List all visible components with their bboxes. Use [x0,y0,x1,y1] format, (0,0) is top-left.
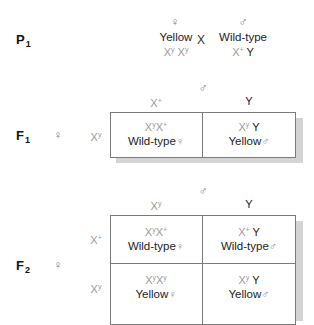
cell-phenotype: Yellow♂ [228,288,269,301]
f2-cell-yellow-male: Xy Y Yellow♂ [228,272,269,301]
p1-label-text: P [16,32,25,47]
header-sup: y [158,200,162,207]
geno-x-sup: y [185,46,189,53]
p1-male-genotype: X+ Y [232,44,254,58]
f1-row-header-x-y: Xy [91,129,102,143]
male-symbol-icon: ♂ [239,16,248,28]
f2-cell-wildtype-male: X+ Y Wild-type♂ [221,224,277,253]
f2-horizontal-divider [110,263,296,264]
header-sup: + [158,97,162,104]
header-sup: y [98,131,102,138]
male-symbol-icon: ♂ [261,135,269,147]
p1-label-sub: 1 [26,39,31,49]
male-symbol-icon: ♂ [269,240,277,252]
cell-genotype: XyX+ [128,224,184,238]
geno-y: Y [244,46,254,58]
header-sup: + [98,234,102,241]
phenotype-text: Wild-type [221,240,269,252]
phenotype-text: Wild-type [128,135,176,147]
f2-cell-wildtype-female: XyX+ Wild-type♀ [128,224,184,253]
f2-label-text: F [16,258,24,273]
header-base: Y [245,95,252,107]
f1-cell-yellow-male: Xy Y Yellow♂ [228,119,269,148]
f2-row-header-x-y: Xy [91,281,102,295]
geno-x: X [145,274,152,286]
f1-col-header-x-plus: X+ [150,95,161,109]
header-base: Y [245,198,252,210]
cell-genotype: Xy Y [228,272,269,286]
f1-cell-wildtype-female: XyX+ Wild-type♀ [128,119,184,148]
cell-genotype: XyXy [135,272,176,286]
male-symbol-icon: ♂ [261,288,269,300]
cell-genotype: X+ Y [221,224,277,238]
cell-genotype: Xy Y [228,119,269,133]
phenotype-text: Yellow [228,288,261,300]
f1-male-symbol-icon: ♂ [199,82,208,94]
f2-female-symbol-icon: ♀ [54,259,63,271]
geno-x: X [174,46,184,58]
f1-female-symbol-icon: ♀ [54,129,63,141]
geno-y: Y [250,226,260,238]
p1-generation-label: P1 [16,32,31,49]
geno-y: Y [249,274,259,286]
geno-sup: y [163,274,167,281]
f2-cell-yellow-female: XyXy Yellow♀ [135,272,176,301]
f2-row-header-x-plus: X+ [90,232,101,246]
f1-divider [202,112,203,158]
cell-genotype: XyX+ [128,119,184,133]
p1-female-genotype: Xy Xy [164,44,189,58]
geno-sup: + [163,226,167,233]
female-symbol-icon: ♀ [168,288,176,300]
f2-generation-label: F2 [16,258,30,275]
cell-phenotype: Wild-type♀ [128,240,184,253]
p1-male-phenotype: Wild-type [219,31,267,44]
f2-col-header-y: Y [245,198,252,210]
geno-sup: + [163,121,167,128]
cell-phenotype: Yellow♂ [228,135,269,148]
phenotype-text: Yellow [135,288,168,300]
f1-generation-label: F1 [16,128,30,145]
cell-phenotype: Yellow♀ [135,288,176,301]
f2-male-symbol-icon: ♂ [199,185,208,197]
phenotype-text: Yellow [228,135,261,147]
geno-y: Y [249,121,259,133]
f1-label-sub: 1 [25,135,30,145]
cell-phenotype: Wild-type♂ [221,240,277,253]
geno-x: X [238,226,245,238]
cell-phenotype: Wild-type♀ [128,135,184,148]
cross-symbol: X [197,33,205,47]
geno-x: X [156,274,163,286]
female-symbol-icon: ♀ [171,16,180,28]
f2-label-sub: 2 [25,265,30,275]
f1-label-text: F [16,128,24,143]
female-symbol-icon: ♀ [176,240,184,252]
f2-vertical-divider [202,215,203,325]
f1-col-header-y: Y [245,95,252,107]
header-sup: y [98,283,102,290]
f2-col-header-x-y: Xy [151,198,162,212]
p1-female-phenotype: Yellow [160,31,193,44]
female-symbol-icon: ♀ [176,135,184,147]
phenotype-text: Wild-type [128,240,176,252]
